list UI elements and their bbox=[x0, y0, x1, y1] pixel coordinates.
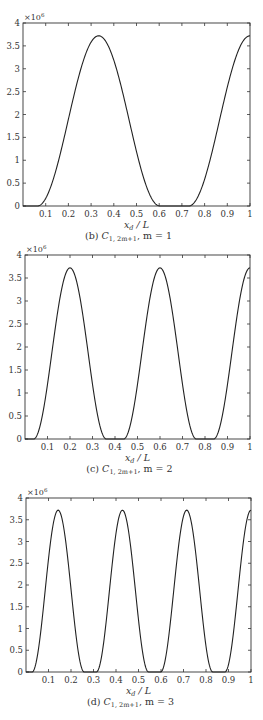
chart-panel-d: 0.10.20.30.40.50.60.70.80.9100.511.522.5… bbox=[9, 487, 253, 709]
y-tick-label: 1 bbox=[17, 388, 22, 398]
y-tick-label: 1.5 bbox=[8, 365, 22, 375]
x-tick-label: 0.8 bbox=[199, 675, 213, 685]
y-tick-label: 3 bbox=[18, 537, 23, 547]
x-tick-label: 0.9 bbox=[222, 675, 236, 685]
y-tick-label: 3 bbox=[17, 296, 22, 306]
y-tick-label: 2 bbox=[15, 110, 20, 120]
y-tick-label: 2 bbox=[17, 342, 22, 352]
x-tick-label: 0.8 bbox=[198, 442, 212, 452]
y-tick-label: 1.5 bbox=[9, 602, 23, 612]
y-tick-label: 0 bbox=[17, 434, 22, 444]
y-tick-label: 0.5 bbox=[8, 411, 22, 421]
y-multiplier: ×106 bbox=[27, 487, 48, 497]
y-tick-label: 1 bbox=[18, 624, 23, 634]
y-tick-label: 3.5 bbox=[8, 273, 22, 283]
x-tick-label: 0.7 bbox=[177, 675, 191, 685]
y-tick-label: 1.5 bbox=[6, 132, 20, 142]
x-tick-label: 0.2 bbox=[62, 209, 76, 219]
plot-frame bbox=[23, 23, 250, 206]
y-tick-label: 4 bbox=[17, 250, 22, 260]
x-tick-label: 0.7 bbox=[176, 442, 190, 452]
chart-panel-b: 0.10.20.30.40.50.60.70.80.9100.511.522.5… bbox=[6, 12, 252, 243]
y-tick-label: 2.5 bbox=[8, 319, 22, 329]
y-multiplier: ×106 bbox=[26, 244, 47, 254]
x-tick-label: 0.6 bbox=[153, 442, 167, 452]
x-tick-label: 1 bbox=[247, 209, 252, 219]
chart-panel-c: 0.10.20.30.40.50.60.70.80.9100.511.522.5… bbox=[8, 244, 252, 476]
plot-frame bbox=[25, 255, 250, 439]
x-tick-label: 0.1 bbox=[39, 209, 53, 219]
x-tick-label: 1 bbox=[247, 442, 252, 452]
x-tick-label: 0.3 bbox=[87, 675, 101, 685]
x-tick-label: 0.9 bbox=[221, 442, 235, 452]
x-tick-label: 0.6 bbox=[152, 209, 166, 219]
charts-svg: 0.10.20.30.40.50.60.70.80.9100.511.522.5… bbox=[0, 0, 263, 720]
y-tick-label: 3.5 bbox=[6, 41, 20, 51]
y-tick-label: 0.5 bbox=[9, 645, 23, 655]
data-line bbox=[23, 36, 250, 206]
x-tick-label: 0.6 bbox=[154, 675, 168, 685]
y-tick-label: 4 bbox=[18, 493, 23, 503]
y-tick-label: 3 bbox=[15, 64, 20, 74]
data-line bbox=[26, 510, 251, 672]
y-tick-label: 2.5 bbox=[6, 87, 20, 97]
x-tick-label: 0.2 bbox=[63, 442, 77, 452]
x-tick-label: 0.1 bbox=[42, 675, 56, 685]
x-tick-label: 0.7 bbox=[175, 209, 189, 219]
x-tick-label: 0.8 bbox=[198, 209, 212, 219]
x-tick-label: 1 bbox=[248, 675, 253, 685]
y-multiplier: ×106 bbox=[24, 12, 45, 22]
x-tick-label: 0.1 bbox=[41, 442, 55, 452]
y-tick-label: 2.5 bbox=[9, 558, 23, 568]
x-tick-label: 0.3 bbox=[86, 442, 100, 452]
y-tick-label: 4 bbox=[15, 18, 20, 28]
y-tick-label: 3.5 bbox=[9, 515, 23, 525]
y-tick-label: 0.5 bbox=[6, 178, 20, 188]
x-tick-label: 0.2 bbox=[64, 675, 78, 685]
y-tick-label: 2 bbox=[18, 580, 23, 590]
plot-frame bbox=[26, 498, 251, 672]
data-line bbox=[25, 268, 250, 439]
x-tick-label: 0.5 bbox=[132, 675, 146, 685]
x-tick-label: 0.3 bbox=[84, 209, 98, 219]
x-tick-label: 0.9 bbox=[221, 209, 235, 219]
y-tick-label: 1 bbox=[15, 155, 20, 165]
y-tick-label: 0 bbox=[18, 667, 23, 677]
x-tick-label: 0.4 bbox=[109, 675, 123, 685]
x-tick-label: 0.4 bbox=[107, 209, 121, 219]
x-tick-label: 0.5 bbox=[130, 209, 144, 219]
x-tick-label: 0.4 bbox=[108, 442, 122, 452]
y-tick-label: 0 bbox=[15, 201, 20, 211]
x-tick-label: 0.5 bbox=[131, 442, 145, 452]
